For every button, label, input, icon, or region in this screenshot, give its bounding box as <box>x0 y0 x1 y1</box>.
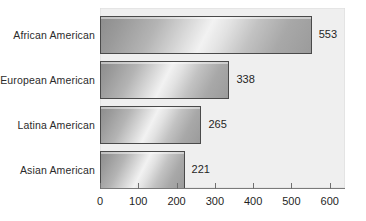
plot-area <box>100 8 345 188</box>
category-label-asian-american: Asian American <box>0 165 95 176</box>
x-tick-label-600: 600 <box>321 196 339 207</box>
x-axis-line <box>100 188 345 189</box>
bar-chart: African American European American Latin… <box>0 0 366 221</box>
x-tick-label-100: 100 <box>129 196 147 207</box>
category-axis-labels: African American European American Latin… <box>0 8 95 188</box>
category-label-european-american: European American <box>0 75 95 86</box>
value-label-african-american: 553 <box>319 29 337 40</box>
x-tick-200 <box>177 183 178 189</box>
value-label-asian-american: 221 <box>192 164 210 175</box>
x-tick-label-0: 0 <box>97 196 103 207</box>
x-tick-400 <box>253 183 254 189</box>
x-tick-300 <box>215 183 216 189</box>
x-tick-0 <box>100 183 101 189</box>
value-label-european-american: 338 <box>236 74 254 85</box>
x-tick-100 <box>138 183 139 189</box>
x-tick-500 <box>291 183 292 189</box>
x-tick-label-200: 200 <box>167 196 185 207</box>
x-tick-label-500: 500 <box>282 196 300 207</box>
x-tick-600 <box>330 183 331 189</box>
bar-asian-american <box>100 151 185 189</box>
bar-european-american <box>100 61 229 99</box>
bar-latina-american <box>100 106 201 144</box>
x-tick-label-400: 400 <box>244 196 262 207</box>
category-label-latina-american: Latina American <box>0 120 95 131</box>
category-label-african-american: African American <box>0 30 95 41</box>
bars-container <box>100 8 345 188</box>
x-tick-label-300: 300 <box>206 196 224 207</box>
value-label-latina-american: 265 <box>208 119 226 130</box>
bar-african-american <box>100 16 312 54</box>
